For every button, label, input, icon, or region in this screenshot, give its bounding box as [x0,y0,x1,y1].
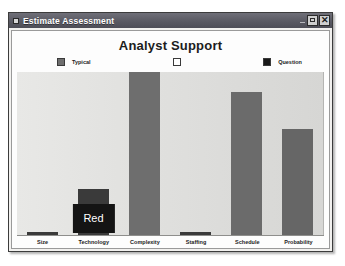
legend-item[interactable]: Question [263,58,302,66]
bar-annotation-label: Red [72,204,114,233]
legend-swatch [57,58,65,66]
chart-legend: TypicalQuestion [17,56,324,68]
bar[interactable] [180,232,212,235]
category-label: Schedule [222,239,273,245]
category-label: Technology [68,239,119,245]
category-label: Probability [273,239,324,245]
chart-title: Analyst Support [17,38,324,53]
plot-area: Red [17,72,324,235]
app-icon [12,17,20,25]
bar-slot [17,72,68,235]
category-label: Complexity [119,239,170,245]
window-title: Estimate Assessment [23,16,297,26]
client-area: Analyst Support TypicalQuestion Red Size… [11,30,330,249]
bar[interactable] [282,129,314,235]
close-button[interactable]: ✕ [319,15,330,26]
bar-slot [119,72,170,235]
legend-item[interactable]: Typical [57,58,91,66]
legend-item[interactable] [173,58,181,66]
bar-slot [221,72,272,235]
category-axis-labels: SizeTechnologyComplexityStaffingSchedule… [17,236,324,245]
window-title-bar[interactable]: Estimate Assessment ✕ [9,13,332,28]
application-window: Estimate Assessment ✕ Analyst Support Ty… [8,12,333,252]
category-label: Size [17,239,68,245]
minimize-button[interactable] [297,15,306,26]
legend-label: Typical [72,59,91,65]
bar-slot [272,72,323,235]
legend-swatch [173,58,181,66]
bar[interactable] [231,92,263,235]
bar[interactable] [27,232,59,235]
legend-label: Question [278,59,302,65]
maximize-button[interactable] [307,15,318,26]
bar[interactable] [129,72,161,235]
category-label: Staffing [171,239,222,245]
bar-slot: Red [68,72,119,235]
bar-slot [170,72,221,235]
legend-swatch [263,58,271,66]
window-controls: ✕ [297,15,331,26]
plot-wrapper: Red SizeTechnologyComplexityStaffingSche… [17,72,324,245]
